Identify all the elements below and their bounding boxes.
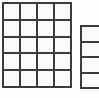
grid-cell[interactable]	[55, 71, 70, 86]
grid-cell[interactable]	[82, 27, 99, 41]
secondary-grid	[80, 25, 99, 89]
grid-cell[interactable]	[38, 71, 53, 86]
grid-cell[interactable]	[4, 54, 19, 69]
grid-cell[interactable]	[55, 21, 70, 36]
grid-cell[interactable]	[55, 4, 70, 19]
grid-cell[interactable]	[82, 43, 99, 57]
grid-cell[interactable]	[38, 38, 53, 53]
grid-cell[interactable]	[82, 58, 99, 72]
grid-cell[interactable]	[55, 54, 70, 69]
grid-cell[interactable]	[4, 4, 19, 19]
grid-cell[interactable]	[21, 21, 36, 36]
grid-cell[interactable]	[4, 38, 19, 53]
grid-cell[interactable]	[21, 54, 36, 69]
grid-cell[interactable]	[55, 38, 70, 53]
grid-cell[interactable]	[4, 21, 19, 36]
grid-cell[interactable]	[21, 71, 36, 86]
canvas	[0, 0, 99, 98]
grid-cell[interactable]	[4, 71, 19, 86]
primary-grid	[2, 2, 72, 88]
grid-cell[interactable]	[21, 4, 36, 19]
grid-cell[interactable]	[82, 74, 99, 88]
grid-cell[interactable]	[38, 4, 53, 19]
grid-cell[interactable]	[38, 54, 53, 69]
grid-cell[interactable]	[21, 38, 36, 53]
grid-cell[interactable]	[38, 21, 53, 36]
